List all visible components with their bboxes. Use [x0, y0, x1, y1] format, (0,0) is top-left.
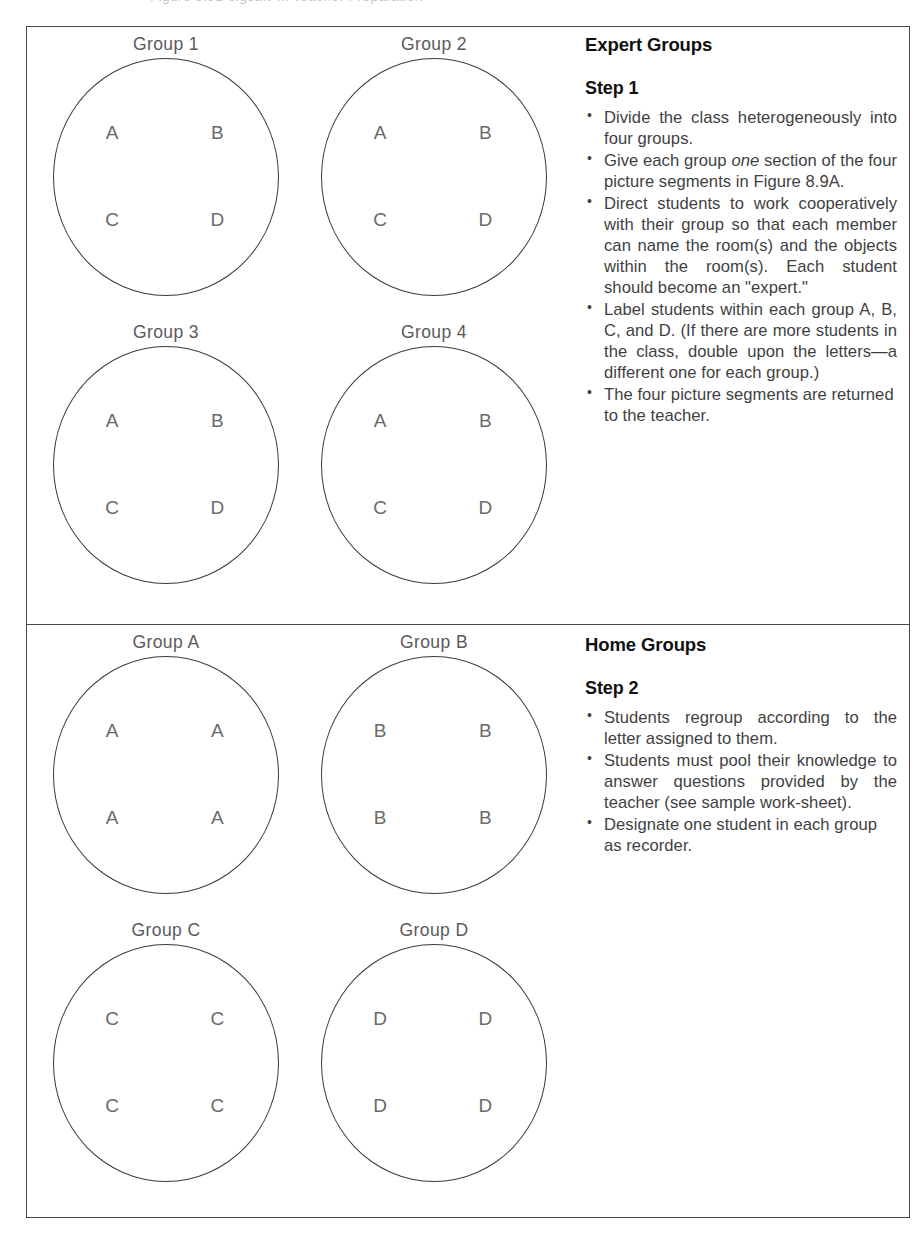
group-member: C [105, 1096, 119, 1115]
group-member: B [479, 411, 492, 430]
group-member: A [106, 721, 119, 740]
bullet-item: Label students within each group A, B, C… [585, 300, 897, 384]
group-caption: Group 4 [310, 321, 558, 343]
group-caption: Group 1 [42, 33, 290, 55]
group-member: A [106, 123, 119, 142]
home-groups-diagram-pane: Group A A A A A Group B B B B B [27, 625, 573, 1218]
member-grid: D D D D [322, 945, 546, 1181]
step-1-heading: Step 1 [585, 79, 897, 99]
group-member: D [479, 1096, 493, 1115]
group-circle: A B C D [53, 58, 279, 296]
group-member: D [373, 1096, 387, 1115]
group-caption: Group B [310, 631, 558, 653]
group-member: D [211, 210, 225, 229]
group-member: B [374, 808, 387, 827]
group-member: A [374, 123, 387, 142]
group-circle: C C C C [53, 944, 279, 1182]
group-member: A [211, 808, 224, 827]
group-caption: Group A [42, 631, 290, 653]
step-2-bullet-list: Students regroup according to the letter… [585, 708, 897, 857]
group-member: D [373, 1009, 387, 1028]
group-member: B [211, 411, 224, 430]
member-grid: C C C C [54, 945, 278, 1181]
group-circle: A A A A [53, 656, 279, 894]
bullet-item: Students must pool their knowledge to an… [585, 751, 897, 814]
group-unit-d: Group D D D D D [310, 919, 558, 1182]
group-member: A [106, 808, 119, 827]
member-grid: A B C D [54, 59, 278, 295]
home-groups-text-pane: Home Groups Step 2 Students regroup acco… [585, 635, 897, 858]
group-member: D [211, 498, 225, 517]
group-member: B [479, 808, 492, 827]
group-caption: Group 3 [42, 321, 290, 343]
bullet-item: The four picture segments are returned t… [585, 385, 897, 427]
member-grid: A B C D [322, 59, 546, 295]
expert-groups-diagram-pane: Group 1 A B C D Group 2 A B C D [27, 27, 573, 624]
group-unit-c: Group C C C C C [42, 919, 290, 1182]
member-grid: A B C D [54, 347, 278, 583]
group-circle: A B C D [53, 346, 279, 584]
group-member: C [105, 210, 119, 229]
group-member: D [479, 498, 493, 517]
group-member: B [479, 123, 492, 142]
emphasized-word: one [731, 151, 759, 170]
top-caption-strip: Figure 8.9B Jigsaw II: Teacher Preparati… [0, 0, 922, 12]
group-caption: Group C [42, 919, 290, 941]
group-member: C [211, 1096, 225, 1115]
group-member: B [211, 123, 224, 142]
group-unit-3: Group 3 A B C D [42, 321, 290, 584]
group-unit-1: Group 1 A B C D [42, 33, 290, 296]
group-circle: B B B B [321, 656, 547, 894]
bullet-item: Give each group one section of the four … [585, 151, 897, 193]
group-member: C [105, 498, 119, 517]
home-groups-heading: Home Groups [585, 635, 897, 655]
bullet-item: Direct students to work cooperatively wi… [585, 194, 897, 299]
group-member: B [479, 721, 492, 740]
group-member: D [479, 1009, 493, 1028]
group-caption: Group D [310, 919, 558, 941]
bullet-item: Divide the class heterogeneously into fo… [585, 108, 897, 150]
group-caption: Group 2 [310, 33, 558, 55]
expert-groups-text-pane: Expert Groups Step 1 Divide the class he… [585, 35, 897, 428]
group-unit-2: Group 2 A B C D [310, 33, 558, 296]
expert-groups-heading: Expert Groups [585, 35, 897, 55]
step-2-heading: Step 2 [585, 679, 897, 699]
group-circle: A B C D [321, 58, 547, 296]
group-circle: D D D D [321, 944, 547, 1182]
member-grid: B B B B [322, 657, 546, 893]
group-member: C [373, 210, 387, 229]
group-member: C [373, 498, 387, 517]
group-circle: A B C D [321, 346, 547, 584]
group-member: A [106, 411, 119, 430]
member-grid: A B C D [322, 347, 546, 583]
group-unit-a: Group A A A A A [42, 631, 290, 894]
group-member: A [374, 411, 387, 430]
bullet-item: Designate one student in each group as r… [585, 815, 897, 857]
member-grid: A A A A [54, 657, 278, 893]
group-member: C [211, 1009, 225, 1028]
group-unit-4: Group 4 A B C D [310, 321, 558, 584]
figure-caption-partial: Figure 8.9B Jigsaw II: Teacher Preparati… [150, 0, 423, 4]
group-member: A [211, 721, 224, 740]
step-1-bullet-list: Divide the class heterogeneously into fo… [585, 108, 897, 427]
figure-box: Group 1 A B C D Group 2 A B C D [26, 26, 910, 1218]
group-member: D [479, 210, 493, 229]
bullet-item: Students regroup according to the letter… [585, 708, 897, 750]
group-member: B [374, 721, 387, 740]
group-member: C [105, 1009, 119, 1028]
group-unit-b: Group B B B B B [310, 631, 558, 894]
